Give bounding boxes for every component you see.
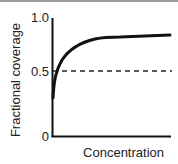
x-axis-label: Concentration: [83, 145, 164, 160]
y-tick-0-5: 0.5: [31, 64, 49, 79]
y-tick-0: 0: [42, 129, 49, 144]
coverage-chart: 1.0 0.5 0 Concentration Fractional cover…: [0, 0, 178, 164]
y-tick-1: 1.0: [31, 10, 49, 25]
coverage-curve: [53, 35, 170, 98]
y-axis-label: Fractional coverage: [8, 23, 23, 137]
